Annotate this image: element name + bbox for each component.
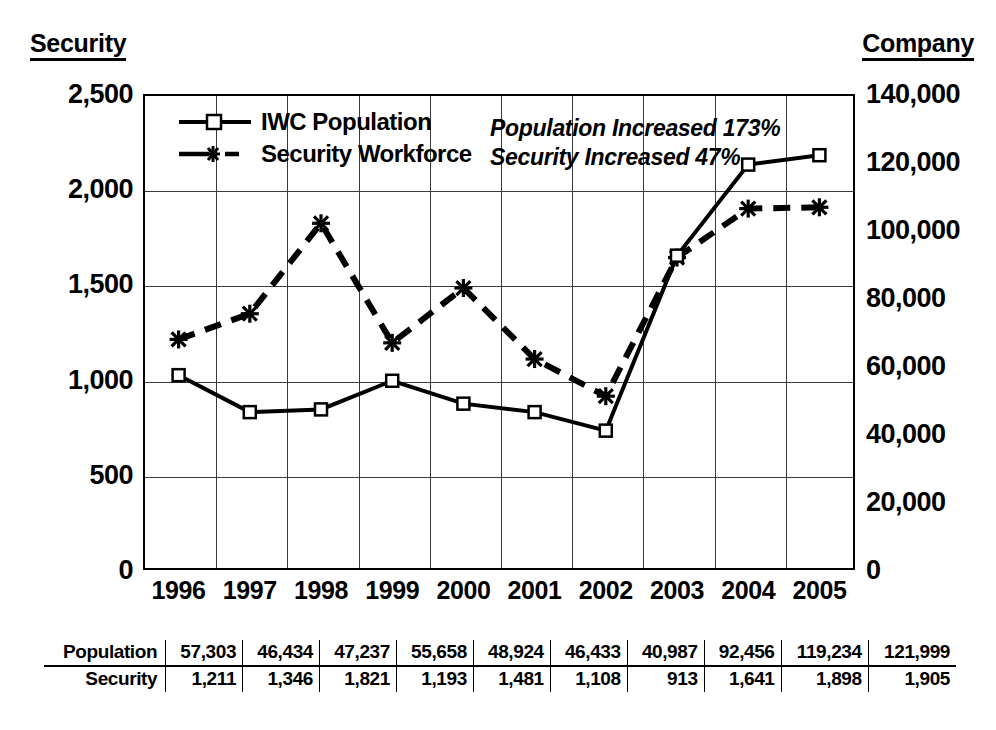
right-axis-tick: 140,000 <box>866 81 996 108</box>
left-axis-tick: 1,500 <box>3 271 133 298</box>
legend-sample-solid-square-icon <box>175 111 255 133</box>
table-cell: 57,303 <box>166 640 243 666</box>
annotation-security-increase: Security Increased 47% <box>490 143 780 172</box>
right-axis-title: Company <box>862 30 974 61</box>
table-row: Security1,2111,3461,8211,1931,4811,10891… <box>44 666 956 692</box>
table-cell: 46,433 <box>550 640 627 666</box>
table-cell: 1,346 <box>243 666 320 692</box>
marker-asterisk <box>170 330 188 348</box>
marker-asterisk <box>597 387 615 405</box>
table-cell: 47,237 <box>319 640 396 666</box>
left-axis-tick-labels: 05001,0001,5002,0002,500 <box>0 94 133 570</box>
x-axis-tick: 2005 <box>764 578 874 603</box>
legend-label-security: Security Workforce <box>261 140 472 168</box>
left-axis-tick: 0 <box>3 557 133 584</box>
table-cell: 46,434 <box>243 640 320 666</box>
right-axis-tick: 20,000 <box>866 489 996 516</box>
table-cell: 1,641 <box>704 666 781 692</box>
table-cell: 92,456 <box>704 640 781 666</box>
right-axis-tick: 120,000 <box>866 149 996 176</box>
x-axis-tick-labels: 1996199719981999200020012002200320042005 <box>143 578 855 618</box>
marker-open-square <box>173 369 185 381</box>
left-axis-tick: 500 <box>3 461 133 488</box>
right-axis-tick: 100,000 <box>866 217 996 244</box>
chart-annotations: Population Increased 173% Security Incre… <box>490 114 780 173</box>
series-line-population <box>179 155 820 430</box>
marker-asterisk <box>526 350 544 368</box>
data-table: Population57,30346,43447,23755,65848,924… <box>44 640 956 692</box>
table-cell: 1,821 <box>319 666 396 692</box>
marker-open-square <box>813 149 825 161</box>
marker-open-square <box>457 398 469 410</box>
marker-open-square <box>244 406 256 418</box>
legend-label-population: IWC Population <box>261 108 431 136</box>
table-cell: 119,234 <box>781 640 868 666</box>
right-axis-tick: 0 <box>866 557 996 584</box>
series-line-security <box>179 207 820 396</box>
left-axis-title: Security <box>30 30 126 61</box>
table-cell: 121,999 <box>868 640 956 666</box>
marker-asterisk <box>739 200 757 218</box>
table-row: Population57,30346,43447,23755,65848,924… <box>44 640 956 666</box>
marker-open-square <box>315 403 327 415</box>
marker-open-square <box>600 425 612 437</box>
table-cell: 913 <box>627 666 704 692</box>
marker-open-square <box>386 375 398 387</box>
marker-asterisk <box>312 214 330 232</box>
chart-legend: IWC Population Security Wo <box>175 106 505 170</box>
table-cell: 1,211 <box>166 666 243 692</box>
table-row-header: Security <box>44 666 166 692</box>
table-cell: 1,193 <box>396 666 473 692</box>
table-cell: 1,481 <box>473 666 550 692</box>
marker-asterisk <box>241 305 259 323</box>
table-cell: 1,898 <box>781 666 868 692</box>
legend-sample-dashed-asterisk-icon <box>175 143 255 165</box>
left-axis-tick: 2,000 <box>3 176 133 203</box>
right-axis-tick: 60,000 <box>866 353 996 380</box>
chart-plot-region: 05001,0001,5002,0002,500 020,00040,00060… <box>0 70 996 615</box>
marker-asterisk <box>454 279 472 297</box>
table-cell: 40,987 <box>627 640 704 666</box>
table-cell: 48,924 <box>473 640 550 666</box>
table-cell: 1,108 <box>550 666 627 692</box>
annotation-population-increase: Population Increased 173% <box>490 114 780 143</box>
data-table-grid: Population57,30346,43447,23755,65848,924… <box>44 640 956 692</box>
right-axis-tick-labels: 020,00040,00060,00080,000100,000120,0001… <box>866 94 996 570</box>
marker-open-square <box>529 406 541 418</box>
left-axis-tick: 1,000 <box>3 366 133 393</box>
right-axis-tick: 80,000 <box>866 285 996 312</box>
table-cell: 55,658 <box>396 640 473 666</box>
table-row-header: Population <box>44 640 166 666</box>
marker-asterisk <box>383 334 401 352</box>
legend-item-security: Security Workforce <box>175 138 505 170</box>
right-axis-tick: 40,000 <box>866 421 996 448</box>
marker-asterisk <box>810 198 828 216</box>
legend-item-population: IWC Population <box>175 106 505 138</box>
chart-page: Security Company 05001,0001,5002,0002,50… <box>0 0 996 730</box>
left-axis-tick: 2,500 <box>3 81 133 108</box>
table-cell: 1,905 <box>868 666 956 692</box>
marker-open-square <box>671 250 683 262</box>
